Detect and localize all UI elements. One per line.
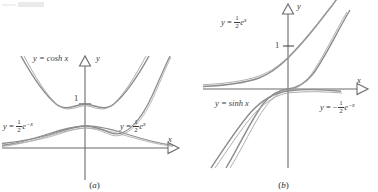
panel-b-plot: [189, 0, 378, 192]
label-cosh-a: y = cosh x: [33, 54, 68, 63]
y-axis-b: [283, 4, 294, 168]
panel-b: y = 12 ex y = ½ e^x y = sinh x y = − 12 …: [189, 0, 378, 192]
label-half-e-neg-x-a: y = 12 e−x y = ½ e^−x: [3, 119, 33, 135]
y-axis-label-a: y: [96, 54, 100, 63]
y-tick-label-b: 1: [275, 41, 279, 50]
label-half-e-x-b: y = 12 ex y = ½ e^x: [221, 15, 247, 31]
fraction-one-half: 12: [133, 119, 139, 135]
y-axis-label-b: y: [297, 2, 301, 11]
panel-a-plot: [0, 0, 189, 192]
x-axis-label-a: x: [168, 135, 172, 144]
curve-half-e-x-b: [203, 0, 336, 87]
x-axis-label-b: x: [357, 76, 361, 85]
fraction-one-half: 12: [338, 100, 344, 116]
y-tick-label-a: 1: [74, 94, 78, 103]
label-neg-half-e-neg-x-b: y = − 12 e−x y = −½ e^−x: [320, 100, 355, 116]
fraction-one-half: 12: [234, 15, 240, 31]
caption-b: (b): [189, 180, 378, 190]
label-sinh-b: y = sinh x: [215, 99, 249, 108]
panel-a: y = cosh x y = 12 e−x y = ½ e^−x y = 12 …: [0, 0, 189, 192]
caption-a: (a): [0, 180, 189, 190]
label-half-e-x-a: y = 12 ex y = ½ e^x: [120, 119, 146, 135]
y-axis-a: [80, 56, 91, 180]
fraction-one-half: 12: [16, 119, 22, 135]
hyperbolic-functions-figure: y = cosh x y = 12 e−x y = ½ e^−x y = 12 …: [0, 0, 378, 192]
x-axis-a: [2, 143, 179, 154]
